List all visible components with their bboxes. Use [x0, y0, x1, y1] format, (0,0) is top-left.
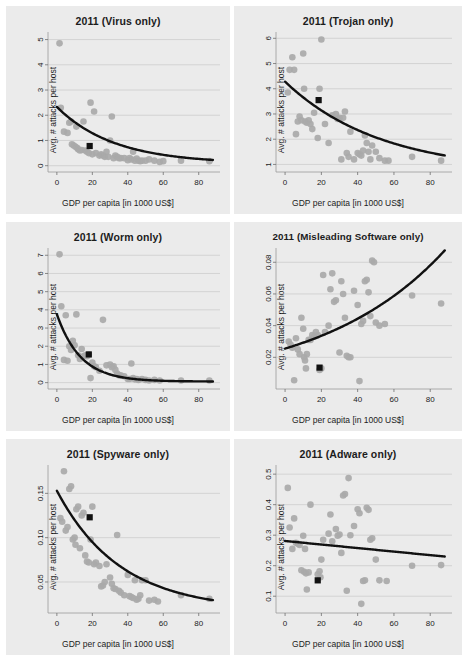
svg-text:2: 2 [265, 136, 274, 141]
svg-text:40: 40 [353, 178, 362, 187]
svg-text:80: 80 [194, 178, 203, 187]
svg-text:20: 20 [317, 178, 326, 187]
panel-spyware: 2011 (Spyware only) Avg. # attacks per h… [6, 439, 230, 655]
svg-text:0.2: 0.2 [265, 560, 274, 572]
svg-text:0: 0 [283, 178, 288, 187]
scatter-plot-adware: 0.10.20.30.40.5020406080 [234, 439, 462, 655]
svg-text:20: 20 [88, 619, 97, 628]
x-axis-label: GDP per capita [in 1000 US$] [234, 639, 462, 649]
svg-text:1: 1 [37, 362, 46, 367]
svg-text:60: 60 [389, 178, 398, 187]
scatter-plot-spyware: 0.050.100.15020406080 [6, 439, 230, 655]
x-axis-label: GDP per capita [in 1000 US$] [234, 198, 462, 208]
scatter-plot-worm: 01234567020406080 [6, 222, 230, 431]
panel-trojan: 2011 (Trojan only) Avg. # attacks per ho… [234, 6, 462, 214]
panel-worm: 2011 (Worm only) Avg. # attacks per host… [6, 222, 230, 431]
svg-text:40: 40 [353, 395, 362, 404]
svg-text:40: 40 [353, 619, 362, 628]
svg-text:40: 40 [123, 178, 132, 187]
svg-text:3: 3 [265, 111, 274, 116]
svg-text:0: 0 [37, 163, 46, 168]
svg-text:60: 60 [389, 619, 398, 628]
svg-text:0: 0 [55, 178, 60, 187]
svg-text:20: 20 [317, 619, 326, 628]
x-axis-label: GDP per capita [in 1000 US$] [234, 415, 462, 425]
panel-misleading-software: 2011 (Misleading Software only) Avg. # a… [234, 222, 462, 431]
svg-text:7: 7 [37, 253, 46, 258]
svg-text:0: 0 [55, 395, 60, 404]
svg-text:4: 4 [37, 62, 46, 67]
svg-text:60: 60 [159, 395, 168, 404]
scatter-plot-trojan: 123456020406080 [234, 6, 462, 214]
panel-adware: 2011 (Adware only) Avg. # attacks per ho… [234, 439, 462, 655]
svg-text:0.04: 0.04 [265, 317, 274, 333]
svg-text:80: 80 [194, 395, 203, 404]
svg-text:0: 0 [283, 395, 288, 404]
svg-text:0.02: 0.02 [265, 349, 274, 365]
svg-text:0: 0 [37, 380, 46, 385]
svg-text:6: 6 [265, 36, 274, 41]
svg-text:2: 2 [37, 343, 46, 348]
svg-text:0.1: 0.1 [265, 590, 274, 602]
svg-text:6: 6 [37, 271, 46, 276]
svg-text:0.15: 0.15 [37, 485, 46, 501]
svg-text:80: 80 [194, 619, 203, 628]
svg-text:3: 3 [37, 87, 46, 92]
svg-text:0: 0 [283, 619, 288, 628]
svg-text:40: 40 [123, 619, 132, 628]
scatter-plot-misleading-software: 0.020.040.060.08020406080 [234, 222, 462, 431]
panel-virus: 2011 (Virus only) Avg. # attacks per hos… [6, 6, 230, 214]
svg-text:5: 5 [37, 289, 46, 294]
svg-text:0.08: 0.08 [265, 254, 274, 270]
svg-text:4: 4 [37, 307, 46, 312]
svg-text:80: 80 [426, 178, 435, 187]
svg-text:60: 60 [159, 619, 168, 628]
svg-text:60: 60 [389, 395, 398, 404]
svg-text:80: 80 [426, 395, 435, 404]
svg-text:0: 0 [55, 619, 60, 628]
svg-text:60: 60 [159, 178, 168, 187]
svg-text:0.06: 0.06 [265, 286, 274, 302]
svg-text:1: 1 [37, 138, 46, 143]
svg-text:5: 5 [265, 61, 274, 66]
svg-text:20: 20 [88, 395, 97, 404]
x-axis-label: GDP per capita [in 1000 US$] [6, 639, 230, 649]
scatter-plot-virus: 012345020406080 [6, 6, 230, 214]
svg-text:5: 5 [37, 37, 46, 42]
svg-text:0.5: 0.5 [265, 468, 274, 480]
svg-text:0.10: 0.10 [37, 529, 46, 545]
svg-text:20: 20 [317, 395, 326, 404]
figure-grid: 2011 (Virus only) Avg. # attacks per hos… [0, 0, 468, 657]
svg-text:0.4: 0.4 [265, 499, 274, 511]
x-axis-label: GDP per capita [in 1000 US$] [6, 415, 230, 425]
svg-text:20: 20 [88, 178, 97, 187]
svg-text:2: 2 [37, 112, 46, 117]
svg-text:0.05: 0.05 [37, 574, 46, 590]
svg-text:40: 40 [123, 395, 132, 404]
x-axis-label: GDP per capita [in 1000 US$] [6, 198, 230, 208]
svg-text:80: 80 [426, 619, 435, 628]
svg-text:0.3: 0.3 [265, 529, 274, 541]
svg-text:1: 1 [265, 162, 274, 167]
svg-text:4: 4 [265, 86, 274, 91]
svg-text:3: 3 [37, 325, 46, 330]
